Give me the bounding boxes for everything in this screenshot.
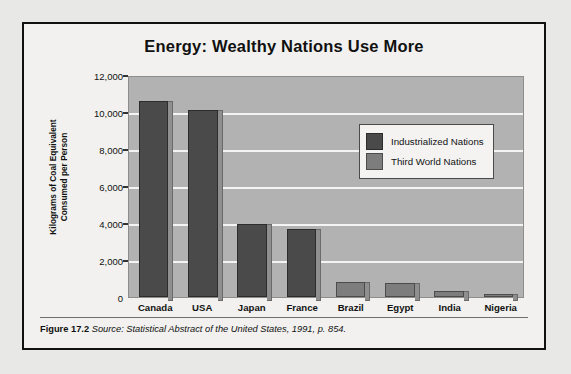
y-axis-tick: [123, 260, 128, 262]
bar-group: [188, 77, 218, 297]
bar-group: [385, 77, 415, 297]
bar-japan: [237, 224, 267, 297]
y-axis-tick-label: 2,000: [67, 256, 123, 267]
y-axis-tick-label: 6,000: [67, 182, 123, 193]
bar-group: [139, 77, 169, 297]
y-axis-tick: [123, 149, 128, 151]
chart-title: Energy: Wealthy Nations Use More: [24, 37, 544, 56]
caption-source: Source: Statistical Abstract of the Unit…: [92, 324, 346, 334]
y-axis-title: Kilograms of Coal Equivalent Consumed pe…: [48, 0, 74, 72]
y-axis-tick-label: 12,000: [67, 71, 123, 82]
x-axis-label-egypt: Egypt: [385, 302, 415, 313]
y-axis-title-line2: Consumed per Person: [59, 72, 70, 282]
plot-area: [128, 76, 524, 298]
bar-canada: [139, 101, 169, 297]
legend-swatch-icon-industrialized: [366, 133, 383, 150]
x-axis-label-nigeria: Nigeria: [484, 302, 514, 313]
bar-india: [434, 291, 464, 297]
caption-divider: [40, 317, 528, 318]
caption-label: Figure 17.2: [40, 324, 89, 334]
bar-shadow: [218, 110, 223, 301]
x-axis-label-france: France: [286, 302, 316, 313]
legend-label-third-world: Third World Nations: [391, 156, 476, 167]
bar-shadow: [415, 283, 420, 301]
bar-brazil: [336, 282, 366, 297]
x-axis-label-usa: USA: [187, 302, 217, 313]
x-axis-label-india: India: [435, 302, 465, 313]
figure-frame: Energy: Wealthy Nations Use More Kilogra…: [22, 22, 546, 350]
y-axis-tick: [123, 186, 128, 188]
bar-shadow: [365, 282, 370, 301]
bar-group: [237, 77, 267, 297]
bar-group: [287, 77, 317, 297]
legend-item-third-world: Third World Nations: [366, 153, 484, 170]
bar-shadow: [316, 229, 321, 301]
y-axis-tick-label: 10,000: [67, 108, 123, 119]
x-axis-labels: CanadaUSAJapanFranceBrazilEgyptIndiaNige…: [128, 302, 524, 322]
bar-group: [434, 77, 464, 297]
bar-shadow: [267, 224, 272, 301]
x-axis-label-canada: Canada: [138, 302, 168, 313]
bar-shadow: [464, 291, 469, 301]
legend-swatch-icon-third-world: [366, 153, 383, 170]
y-axis-tick-label: 0: [67, 293, 123, 304]
x-axis-label-brazil: Brazil: [336, 302, 366, 313]
y-axis-tick-label: 4,000: [67, 219, 123, 230]
bar-nigeria: [484, 294, 514, 297]
y-axis-tick: [123, 112, 128, 114]
y-axis-title-line1: Kilograms of Coal Equivalent: [48, 72, 59, 282]
bar-shadow: [513, 294, 518, 301]
y-axis-tick: [123, 223, 128, 225]
bar-egypt: [385, 283, 415, 297]
bar-france: [287, 229, 317, 297]
bar-group: [336, 77, 366, 297]
x-axis-label-japan: Japan: [237, 302, 267, 313]
plot-wrap: 02,0004,0006,0008,00010,00012,000 Canada…: [112, 76, 524, 328]
figure-caption: Figure 17.2 Source: Statistical Abstract…: [40, 324, 528, 334]
legend-item-industrialized: Industrialized Nations: [366, 133, 484, 150]
bars-layer: [129, 77, 523, 297]
y-axis-tick-label: 8,000: [67, 145, 123, 156]
bar-group: [484, 77, 514, 297]
bar-usa: [188, 110, 218, 297]
chart-legend: Industrialized Nations Third World Natio…: [359, 124, 494, 179]
legend-label-industrialized: Industrialized Nations: [391, 136, 484, 147]
bar-shadow: [168, 101, 173, 301]
y-axis-tick: [123, 75, 128, 77]
